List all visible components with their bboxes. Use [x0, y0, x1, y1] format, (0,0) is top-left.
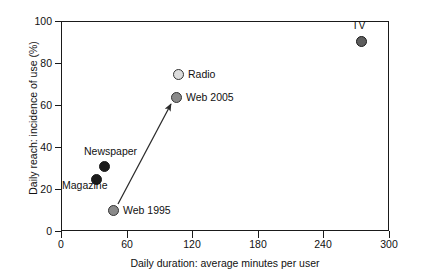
data-point-web-1995[interactable] [108, 205, 119, 216]
data-label-web-1995: Web 1995 [123, 205, 171, 216]
x-ticklabel-0: 0 [39, 239, 83, 250]
data-point-tv[interactable] [356, 36, 367, 47]
x-tick-0 [61, 231, 62, 238]
data-label-radio: Radio [188, 69, 215, 80]
scatter-chart-figure: 100 80 60 40 20 0 0 60 120 180 240 300 D… [0, 0, 422, 280]
x-ticklabel-180: 180 [236, 239, 280, 250]
x-tick-300 [389, 231, 390, 238]
data-label-magazine: Magazine [62, 180, 108, 191]
data-point-radio[interactable] [173, 69, 184, 80]
plot-area-frame [61, 21, 389, 231]
x-ticklabel-60: 60 [105, 239, 149, 250]
x-ticklabel-300: 300 [367, 239, 411, 250]
y-axis-title: Daily reach: incidence of use (%) [27, 13, 39, 223]
data-point-newspaper[interactable] [99, 161, 110, 172]
y-tick-40 [55, 147, 62, 148]
y-tick-20 [55, 189, 62, 190]
x-tick-60 [127, 231, 128, 238]
x-axis-title: Daily duration: average minutes per user [61, 257, 389, 269]
x-tick-240 [323, 231, 324, 238]
x-tick-180 [258, 231, 259, 238]
y-tick-80 [55, 63, 62, 64]
x-ticklabel-120: 120 [170, 239, 214, 250]
x-tick-120 [192, 231, 193, 238]
x-ticklabel-240: 240 [301, 239, 345, 250]
y-ticklabel-0: 0 [12, 226, 52, 237]
data-label-newspaper: Newspaper [84, 146, 137, 157]
y-tick-60 [55, 105, 62, 106]
data-label-tv: TV [352, 20, 365, 31]
y-tick-100 [55, 21, 62, 22]
data-label-web-2005: Web 2005 [186, 92, 234, 103]
data-point-web-2005[interactable] [171, 92, 182, 103]
